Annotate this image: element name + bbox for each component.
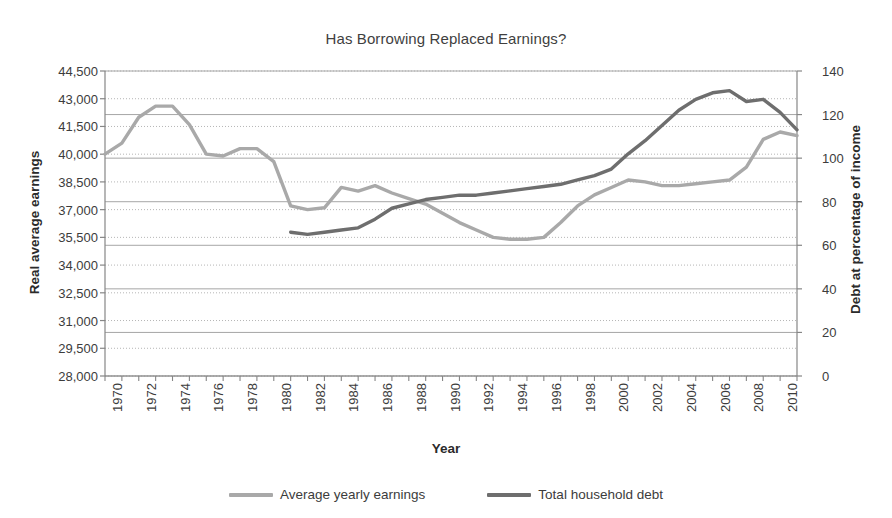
chart-container: Has Borrowing Replaced Earnings? Real av… xyxy=(0,0,892,518)
legend-item[interactable]: Total household debt xyxy=(487,487,663,502)
legend-label: Total household debt xyxy=(538,487,663,502)
plot-area xyxy=(0,0,892,518)
legend-swatch-icon xyxy=(487,493,531,497)
legend-label: Average yearly earnings xyxy=(280,487,425,502)
legend-item[interactable]: Average yearly earnings xyxy=(229,487,425,502)
legend-swatch-icon xyxy=(229,493,273,497)
chart-legend: Average yearly earningsTotal household d… xyxy=(0,487,892,502)
